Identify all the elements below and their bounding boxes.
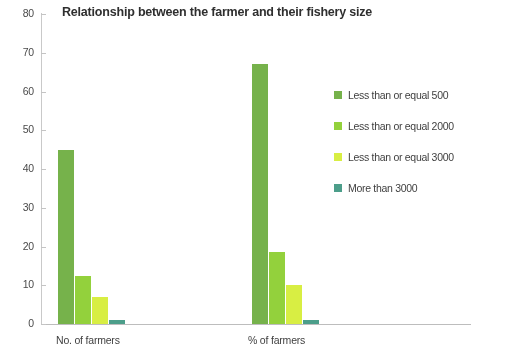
y-axis-tick — [41, 130, 46, 131]
y-axis-tick-label: 50 — [4, 123, 34, 135]
y-axis-tick-label: 80 — [4, 7, 34, 19]
bar — [75, 276, 91, 324]
legend-item[interactable]: Less than or equal 500 — [334, 88, 454, 102]
chart-legend: Less than or equal 500Less than or equal… — [334, 88, 454, 212]
bar — [92, 297, 108, 324]
legend-item-label: Less than or equal 2000 — [348, 120, 454, 132]
legend-item[interactable]: Less than or equal 3000 — [334, 150, 454, 164]
y-axis-tick — [41, 14, 46, 15]
y-axis-tick-label: 10 — [4, 278, 34, 290]
y-axis-tick-label: 30 — [4, 201, 34, 213]
bar — [58, 150, 74, 324]
y-axis-tick-label: 20 — [4, 240, 34, 252]
x-axis-category-label: No. of farmers — [56, 334, 120, 346]
legend-item-label: Less than or equal 3000 — [348, 151, 454, 163]
y-axis-tick — [41, 53, 46, 54]
y-axis-tick-label: 40 — [4, 162, 34, 174]
legend-swatch-icon — [334, 91, 342, 99]
y-axis-tick-label: 60 — [4, 85, 34, 97]
x-axis-category-label: % of farmers — [248, 334, 305, 346]
y-axis-tick-label: 70 — [4, 46, 34, 58]
y-axis-tick — [41, 208, 46, 209]
y-axis-tick — [41, 169, 46, 170]
bar — [109, 320, 125, 324]
legend-item-label: More than 3000 — [348, 182, 417, 194]
bar — [303, 320, 319, 324]
legend-item[interactable]: Less than or equal 2000 — [334, 119, 454, 133]
legend-swatch-icon — [334, 122, 342, 130]
y-axis-tick — [41, 285, 46, 286]
bar — [252, 64, 268, 324]
bar-chart: Relationship between the farmer and thei… — [0, 0, 511, 357]
bar — [286, 285, 302, 324]
y-axis-tick — [41, 247, 46, 248]
y-axis-tick — [41, 92, 46, 93]
y-axis-tick-label: 0 — [4, 317, 34, 329]
y-axis-tick — [41, 324, 46, 325]
bar — [269, 252, 285, 324]
x-axis-line — [41, 324, 471, 325]
legend-item[interactable]: More than 3000 — [334, 181, 454, 195]
legend-swatch-icon — [334, 153, 342, 161]
legend-item-label: Less than or equal 500 — [348, 89, 448, 101]
legend-swatch-icon — [334, 184, 342, 192]
